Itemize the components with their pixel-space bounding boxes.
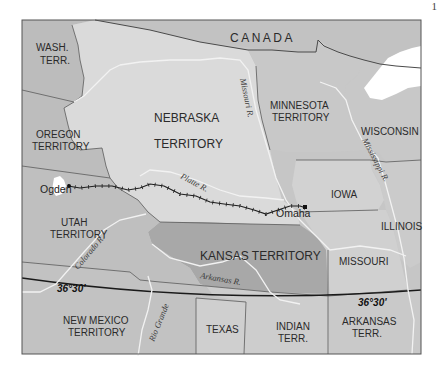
- label-wash-line1: WASH.: [36, 42, 68, 53]
- label-indian-line1: INDIAN: [276, 321, 310, 332]
- label-indian-line2: TERR.: [278, 333, 308, 344]
- label-utah-line1: UTAH: [61, 217, 87, 228]
- label-ogden: Ogden: [40, 183, 72, 195]
- label-canada: CANADA: [230, 31, 295, 45]
- historical-map: CANADA WASH. TERR. OREGON TERRITORY NEBR…: [0, 0, 439, 368]
- label-kansas: KANSAS TERRITORY: [200, 249, 321, 263]
- label-latitude-west: 36°30': [57, 283, 86, 294]
- iowa-region: [292, 160, 384, 212]
- label-nebraska-line2: TERRITORY: [154, 137, 223, 151]
- label-texas: TEXAS: [206, 324, 239, 335]
- label-omaha: Omaha: [276, 207, 311, 219]
- label-latitude-east: 36°30': [358, 297, 387, 308]
- label-minnesota-line2: TERRITORY: [272, 112, 330, 123]
- label-arkansas-line1: ARKANSAS: [342, 316, 397, 327]
- label-arkansas-line2: TERR.: [352, 328, 382, 339]
- label-nebraska-line1: NEBRASKA: [154, 111, 219, 125]
- label-iowa: IOWA: [331, 189, 358, 200]
- label-illinois: ILLINOIS: [381, 221, 422, 232]
- label-oregon-line1: OREGON: [36, 129, 80, 140]
- label-new-mexico-line2: TERRITORY: [68, 327, 126, 338]
- label-missouri: MISSOURI: [339, 256, 388, 267]
- label-wash-line2: TERR.: [40, 55, 70, 66]
- label-new-mexico-line1: NEW MEXICO: [63, 315, 129, 326]
- label-oregon-line2: TERRITORY: [32, 141, 90, 152]
- label-minnesota-line1: MINNESOTA: [270, 100, 329, 111]
